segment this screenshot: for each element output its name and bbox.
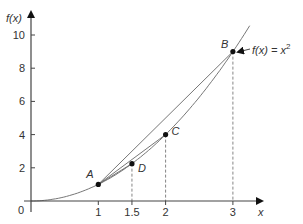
y-tick-label: 8	[19, 62, 25, 74]
x-tick-label: 1	[95, 206, 101, 218]
y-tick-label: 4	[19, 129, 25, 141]
point-label-C: C	[172, 125, 180, 137]
x-tick-label: 1.5	[124, 206, 139, 218]
x-tick-label: 2	[163, 206, 169, 218]
origin-label: 0	[18, 204, 24, 216]
y-tick-label: 2	[19, 162, 25, 174]
function-label-arrow	[238, 49, 250, 52]
y-ticks: 246810	[13, 29, 35, 174]
point-B	[230, 49, 235, 54]
parabola-curve	[31, 26, 250, 201]
function-label: f(x) = x2	[252, 42, 291, 56]
chord-AC	[98, 135, 165, 185]
y-tick-label: 6	[19, 95, 25, 107]
y-axis-label: f(x)	[6, 12, 22, 24]
chords	[98, 52, 233, 185]
x-axis-label: x	[257, 206, 264, 218]
point-label-A: A	[85, 168, 93, 180]
point-A	[96, 182, 101, 187]
point-label-D: D	[138, 162, 146, 174]
labeled-points: ADCB	[85, 38, 235, 187]
chord-AB	[98, 52, 233, 185]
point-D	[129, 161, 134, 166]
x-tick-label: 3	[230, 206, 236, 218]
chord-AD	[98, 164, 132, 185]
y-tick-label: 10	[13, 29, 25, 41]
dashed-drop-lines	[132, 52, 233, 201]
x-ticks: 11.523	[95, 201, 236, 218]
point-label-B: B	[221, 38, 228, 50]
point-C	[163, 132, 168, 137]
chart-svg: 11.523 246810 f(x) x 0 f(x) = x2 ADCB	[0, 0, 303, 224]
figure: 11.523 246810 f(x) x 0 f(x) = x2 ADCB	[0, 0, 303, 224]
